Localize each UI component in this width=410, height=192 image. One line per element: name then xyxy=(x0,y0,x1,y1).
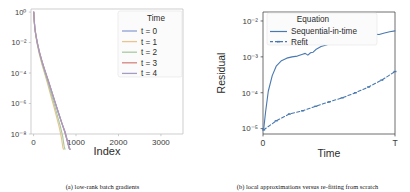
legend-b[interactable]: EquationSequential-in-timeRefit xyxy=(267,13,377,47)
svg-text:t = 2: t = 2 xyxy=(141,48,158,57)
svg-text:10⁻⁴: 10⁻⁴ xyxy=(11,69,27,78)
figure-two-panel: 10⁰10⁻²10⁻⁴10⁻⁶10⁻⁸ 0100020003000 Index … xyxy=(0,0,410,192)
chart-b-svg: 10⁻²10⁻³10⁻⁴10⁻⁵ 0T Residual Time Equati… xyxy=(205,0,410,170)
svg-text:T: T xyxy=(392,138,398,148)
svg-text:1000: 1000 xyxy=(67,138,85,147)
svg-text:10⁻⁴: 10⁻⁴ xyxy=(242,89,259,98)
legend-a[interactable]: Timet = 0t = 1t = 2t = 3t = 4 xyxy=(118,11,182,78)
panel-b: 10⁻²10⁻³10⁻⁴10⁻⁵ 0T Residual Time Equati… xyxy=(205,0,410,192)
svg-text:t = 4: t = 4 xyxy=(141,69,158,78)
x-axis-label-a: Index xyxy=(94,145,121,157)
y-axis-ticks-a: 10⁰10⁻²10⁻⁴10⁻⁶10⁻⁸ xyxy=(11,8,31,139)
chart-a: 10⁰10⁻²10⁻⁴10⁻⁶10⁻⁸ 0100020003000 Index … xyxy=(0,0,205,170)
caption-b: (b) local approximations versus re-fitti… xyxy=(205,183,410,191)
svg-text:Time: Time xyxy=(147,14,165,23)
x-axis-ticks-b: 0T xyxy=(261,134,399,148)
svg-text:t = 1: t = 1 xyxy=(141,38,158,47)
chart-b: 10⁻²10⁻³10⁻⁴10⁻⁵ 0T Residual Time Equati… xyxy=(205,0,410,170)
caption-a: (a) low-rank batch gradients xyxy=(0,183,205,191)
y-axis-label-b: Residual xyxy=(215,53,227,94)
svg-text:10⁻³: 10⁻³ xyxy=(242,53,258,62)
svg-text:10⁻⁵: 10⁻⁵ xyxy=(242,124,258,133)
svg-text:10⁻⁶: 10⁻⁶ xyxy=(11,99,27,108)
svg-text:0: 0 xyxy=(31,138,36,147)
panel-a: 10⁰10⁻²10⁻⁴10⁻⁶10⁻⁸ 0100020003000 Index … xyxy=(0,0,205,192)
chart-a-svg: 10⁰10⁻²10⁻⁴10⁻⁶10⁻⁸ 0100020003000 Index … xyxy=(0,0,205,170)
svg-text:t = 0: t = 0 xyxy=(141,27,158,36)
svg-text:10⁻⁸: 10⁻⁸ xyxy=(11,130,27,139)
x-axis-label-b: Time xyxy=(318,147,341,159)
svg-text:10⁰: 10⁰ xyxy=(15,8,26,17)
svg-text:3000: 3000 xyxy=(152,138,170,147)
svg-text:Refit: Refit xyxy=(291,38,309,47)
svg-text:Equation: Equation xyxy=(297,15,330,24)
svg-text:10⁻²: 10⁻² xyxy=(12,38,27,47)
y-axis-ticks-b: 10⁻²10⁻³10⁻⁴10⁻⁵ xyxy=(242,17,263,134)
svg-text:t = 3: t = 3 xyxy=(141,59,158,68)
svg-text:0: 0 xyxy=(261,138,266,148)
svg-text:10⁻²: 10⁻² xyxy=(242,17,258,26)
svg-text:Sequential-in-time: Sequential-in-time xyxy=(291,27,357,36)
